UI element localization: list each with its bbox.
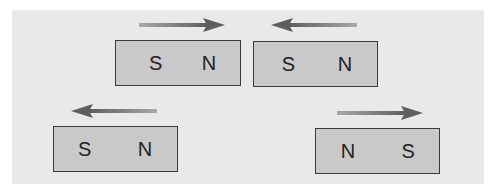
pole-label: S (402, 140, 415, 163)
pole-label: N (341, 140, 355, 163)
magnet-top-right: S N (253, 41, 378, 87)
pole-label: S (282, 53, 295, 76)
arrow-right-icon (337, 105, 423, 121)
magnet-bottom-right: N S (315, 128, 440, 174)
arrow-right-icon (139, 17, 225, 33)
arrow-left-icon (71, 103, 157, 119)
pole-label: S (149, 52, 162, 75)
arrow-left-icon (271, 17, 357, 33)
pole-label: N (138, 138, 152, 161)
magnet-bottom-left: S N (53, 126, 178, 172)
magnet-top-left: S N (115, 40, 241, 86)
pole-label: N (202, 52, 216, 75)
pole-label: N (338, 53, 352, 76)
pole-label: S (78, 138, 91, 161)
